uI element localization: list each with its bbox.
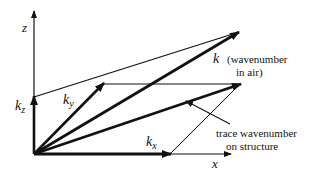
kx-label: kx — [146, 134, 157, 151]
z-axis-label: z — [21, 20, 27, 35]
ky-label: ky — [63, 92, 74, 109]
wavenumber-diagram: z x kz ky kx k (wavenumber in air) trace… — [0, 0, 314, 177]
kz-to-k-edge — [34, 33, 236, 97]
trace-pointer-arrow — [186, 101, 230, 124]
trace-label-line1: trace wavenumber — [216, 127, 297, 139]
x-axis-label: x — [211, 156, 218, 171]
k-description-line1: (wavenumber — [227, 53, 288, 66]
kz-label: kz — [15, 98, 25, 115]
trace-label-line2: on structure — [226, 140, 278, 152]
k-description-line2: in air) — [236, 66, 263, 79]
k-label: k — [213, 51, 220, 66]
